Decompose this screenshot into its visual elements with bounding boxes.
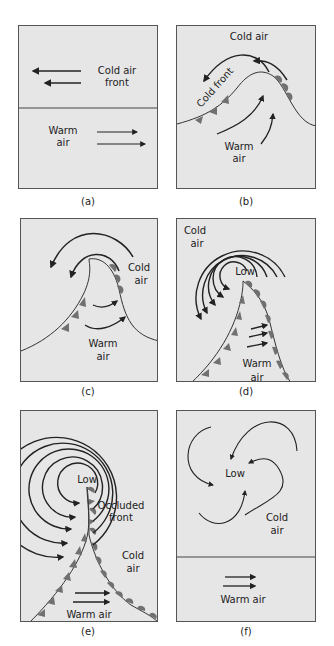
warm-air-label: Warm <box>242 358 271 369</box>
warm-air-label: Warm air <box>220 594 266 605</box>
panel-f: Low Cold air Warm air <box>176 410 316 622</box>
caption-a: (a) <box>68 196 108 207</box>
warm-air-label-2: air <box>232 153 246 164</box>
warm-air-arrows <box>247 325 267 347</box>
cold-air-arrow <box>204 55 269 81</box>
occluded-front-label: Occluded <box>98 500 145 511</box>
warm-air-label-2: air <box>56 137 70 148</box>
panel-c: Cold air Warm air <box>20 218 158 382</box>
panel-a: Cold air front Warm air <box>18 25 158 189</box>
panel-f-diagram: Low Cold air Warm air <box>177 411 316 622</box>
warm-air-arrow <box>85 317 125 329</box>
cold-air-label: Cold <box>128 262 150 273</box>
caption-b: (b) <box>226 196 266 207</box>
cold-air-arrow <box>51 234 133 268</box>
panel-e-diagram: Low Occluded front Cold air Warm air <box>21 411 158 622</box>
cold-front-symbols <box>37 533 87 617</box>
front-label: front <box>105 77 129 88</box>
panel-e: Low Occluded front Cold air Warm air <box>20 410 158 622</box>
panel-b: Cold air Cold front Warm air <box>176 25 316 189</box>
warm-air-label-2: air <box>250 372 264 382</box>
panel-d: Cold air Low Warm air <box>176 218 316 382</box>
caption-f: (f) <box>226 626 266 637</box>
warm-air-label-2: air <box>96 351 110 362</box>
caption-d: (d) <box>226 386 266 397</box>
warm-air-arrows <box>223 577 255 586</box>
cold-air-label-2: air <box>190 238 204 249</box>
cold-air-label-2: air <box>126 563 140 574</box>
occluded-front-label-2: front <box>109 512 133 523</box>
caption-c: (c) <box>68 386 108 397</box>
cold-air-label-2: air <box>270 525 284 536</box>
low-label: Low <box>77 474 97 485</box>
cold-air-label: Cold <box>184 225 206 236</box>
warm-air-arrows <box>73 593 109 602</box>
warm-air-arrow <box>93 301 117 307</box>
cold-air-arrow <box>254 61 287 80</box>
low-label: Low <box>235 266 255 277</box>
cold-air-label: Cold air <box>98 65 137 76</box>
warm-air-label: Warm <box>224 141 253 152</box>
warm-air-label: Warm <box>48 125 77 136</box>
cyclonic-wind-arrows <box>196 251 285 319</box>
warm-air-label: Warm air <box>66 609 112 620</box>
cold-air-label-2: air <box>134 275 148 286</box>
panel-d-diagram: Cold air Low Warm air <box>177 219 316 382</box>
warm-air-label: Warm <box>88 338 117 349</box>
cold-front-symbols <box>61 297 86 332</box>
cold-air-label: Cold <box>266 512 288 523</box>
panel-c-diagram: Cold air Warm air <box>21 219 158 382</box>
warm-front-symbols <box>109 264 123 294</box>
cyclonic-wind-arrows <box>21 437 117 557</box>
cold-air-label: Cold <box>122 550 144 561</box>
cold-front-label: Cold front <box>194 65 235 109</box>
panel-b-diagram: Cold air Cold front Warm air <box>177 26 316 189</box>
panel-a-diagram: Cold air front Warm air <box>19 26 158 189</box>
warm-air-arrow <box>261 114 273 144</box>
low-label: Low <box>225 468 245 479</box>
cold-air-label: Cold air <box>230 31 269 42</box>
caption-e: (e) <box>68 626 108 637</box>
cold-front-symbols <box>201 295 245 377</box>
